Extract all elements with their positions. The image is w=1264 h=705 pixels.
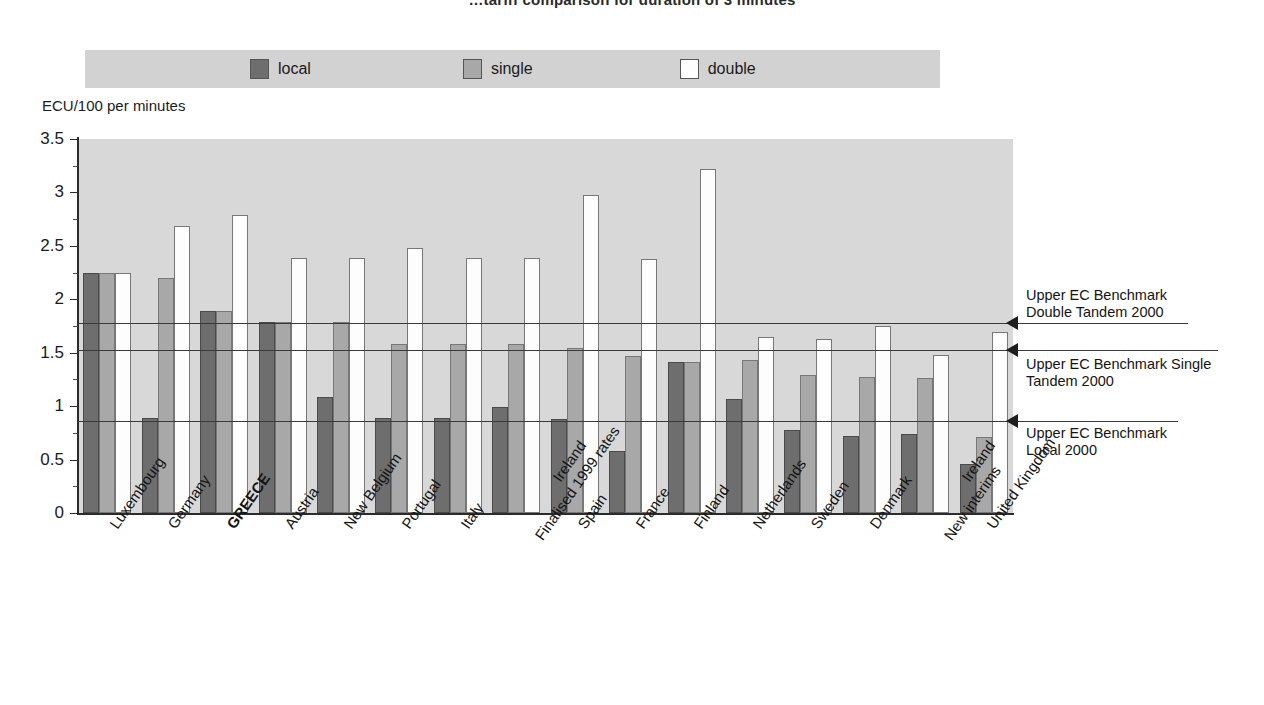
x-axis-label-ireland-new-interims: IrelandNew interims <box>924 437 1015 544</box>
x-axis-label-netherlands: Netherlands <box>749 456 809 532</box>
x-axis-label-luxembourg: Luxembourg <box>106 454 168 532</box>
x-axis-label-greece: GREECE <box>223 470 273 532</box>
x-axis-label-ireland-finalised-1999-rates: IrelandFinalised 1999 rates <box>515 411 624 543</box>
x-axis-label-sweden: Sweden <box>807 478 852 532</box>
x-axis-label-finland: Finland <box>690 482 732 532</box>
x-axis-label-denmark: Denmark <box>866 472 915 532</box>
x-axis-labels: LuxembourgGermanyGREECEAustriaNew Belgiu… <box>0 0 1264 705</box>
x-axis-label-austria: Austria <box>281 484 322 532</box>
x-axis-label-italy: Italy <box>457 499 487 531</box>
x-axis-label-france: France <box>632 484 673 532</box>
x-axis-label-portugal: Portugal <box>398 476 444 532</box>
x-axis-label-germany: Germany <box>164 471 213 531</box>
x-axis-label-new-belgium: New Belgium <box>340 450 405 532</box>
